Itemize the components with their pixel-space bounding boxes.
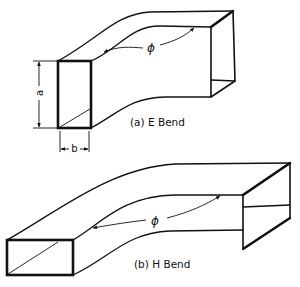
h-bend-front-face bbox=[7, 240, 73, 275]
e-bend-end-inner-edge bbox=[211, 80, 235, 81]
h-bend-caption: (b) H Bend bbox=[134, 258, 190, 270]
dimension-a-label: a bbox=[34, 90, 45, 96]
h-bend-end-inner-edge bbox=[243, 205, 290, 207]
waveguide-bends-diagram: ϕ a b (a) E Bend ϕ ( bbox=[0, 0, 300, 287]
e-bend-angle-arrow bbox=[104, 47, 143, 52]
e-bend-angle-symbol: ϕ bbox=[147, 41, 155, 55]
h-bend-figure: ϕ (b) H Bend bbox=[7, 163, 290, 275]
e-bend-top-back-edge bbox=[58, 11, 233, 61]
h-bend-front-diagonal bbox=[8, 242, 58, 274]
h-bend-angle-symbol: ϕ bbox=[151, 214, 159, 228]
h-bend-top-back-edge bbox=[7, 163, 290, 240]
dimension-b-label: b bbox=[71, 143, 77, 154]
e-bend-front-diagonal bbox=[60, 109, 90, 127]
e-bend-figure: ϕ a b (a) E Bend bbox=[33, 11, 235, 154]
e-bend-caption: (a) E Bend bbox=[130, 116, 185, 128]
